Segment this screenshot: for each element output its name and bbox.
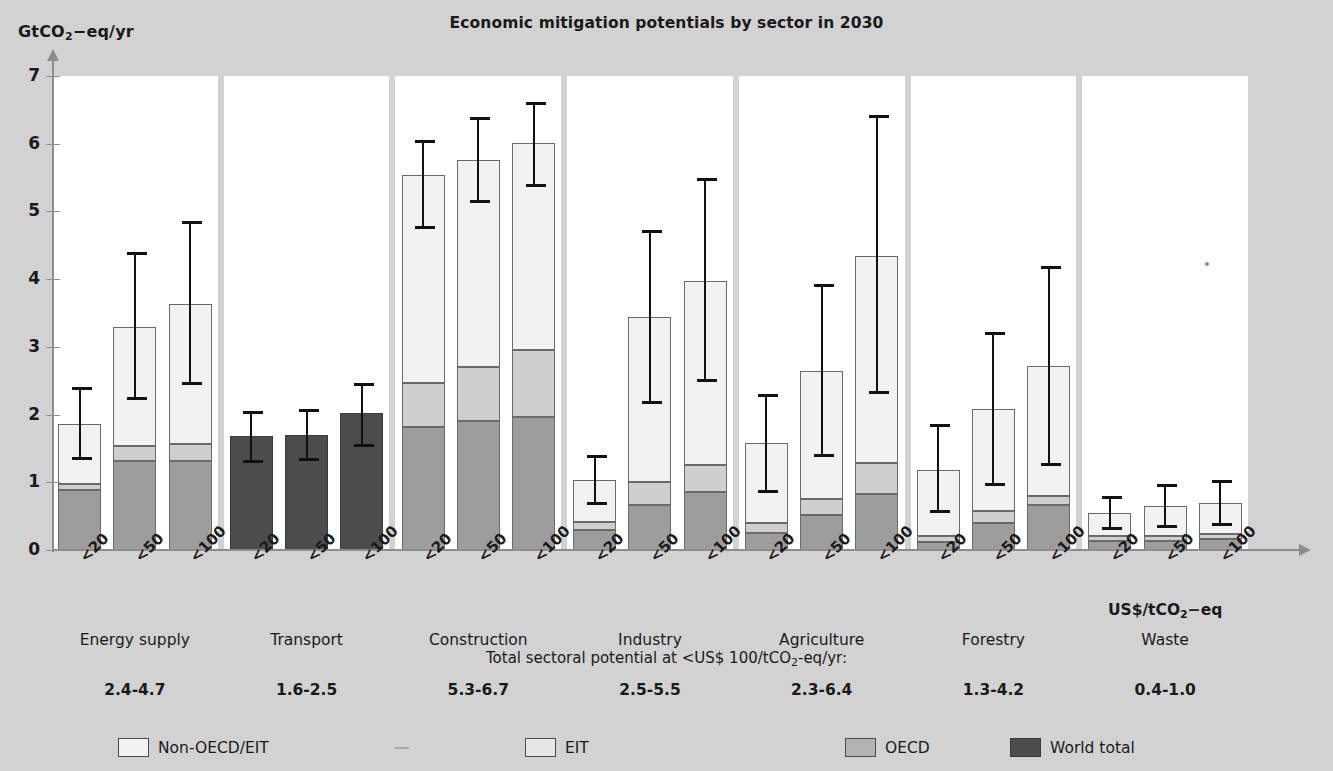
sector-total-value: 1.3-4.2 (911, 681, 1077, 699)
error-bar (533, 102, 535, 187)
bar-segment-eit (169, 444, 212, 460)
legend-item-oecd[interactable]: OECD (845, 738, 930, 757)
error-bar-cap-top (930, 424, 950, 427)
sector-total-value: 1.6-2.5 (224, 681, 390, 699)
bar-segment-eit (628, 482, 671, 505)
error-bar (477, 117, 479, 204)
sector-panel (395, 76, 561, 550)
y-axis-tick-label: 2 (0, 404, 40, 424)
error-bar-cap-bottom (587, 502, 607, 505)
sector-label: Industry (567, 631, 733, 649)
bar-segment-oecd (512, 417, 555, 550)
error-bar-cap-top (1102, 496, 1122, 499)
error-bar-cap-top (1041, 266, 1061, 269)
bar[interactable] (512, 143, 555, 550)
error-bar (1109, 496, 1111, 530)
error-bar-cap-top (72, 387, 92, 390)
sector-label: Agriculture (739, 631, 905, 649)
sector-label: Construction (395, 631, 561, 649)
y-axis-tick-label: 4 (0, 268, 40, 288)
error-bar-cap-bottom (415, 226, 435, 229)
x-axis-unit-label: US$/tCO2−eq (1082, 601, 1248, 621)
sector-panel (52, 76, 218, 550)
legend-item-nonoecd[interactable]: Non-OECD/EIT (118, 738, 269, 757)
error-bar-cap-top (1157, 484, 1177, 487)
error-bar-cap-bottom (243, 460, 263, 463)
error-bar (1048, 266, 1050, 466)
error-bar-cap-bottom (1102, 527, 1122, 530)
y-axis-tick-label: 7 (0, 65, 40, 85)
error-bar (79, 387, 81, 459)
legend-swatch-world (1010, 738, 1041, 757)
y-axis-tick (46, 279, 60, 280)
legend-label: World total (1050, 739, 1135, 757)
legend-item-world[interactable]: World total (1010, 738, 1135, 757)
error-bar-cap-bottom (299, 458, 319, 461)
stray-dot-artifact (1205, 262, 1209, 266)
error-bar-cap-bottom (182, 382, 202, 385)
sector-label: Waste (1082, 631, 1248, 649)
error-bar (1219, 480, 1221, 526)
bar-segment-eit (684, 465, 727, 492)
error-bar-cap-top (354, 383, 374, 386)
error-bar-cap-bottom (758, 490, 778, 493)
plot-area (52, 76, 1248, 550)
sector-panel (911, 76, 1077, 550)
bar-segment-eit (512, 350, 555, 417)
chart-legend: Non-OECD/EITEITOECDWorld total (0, 738, 1333, 771)
bar[interactable] (402, 175, 445, 550)
sector-label: Transport (224, 631, 390, 649)
sector-total-value: 0.4-1.0 (1082, 681, 1248, 699)
legend-item-eit[interactable]: EIT (525, 738, 589, 757)
y-axis-tick (46, 415, 60, 416)
bar-segment-eit (972, 511, 1015, 523)
y-axis-tick (46, 76, 60, 77)
y-axis-tick (46, 482, 60, 483)
error-bar-cap-bottom (869, 391, 889, 394)
error-bar-cap-top (587, 455, 607, 458)
legend-swatch-eit (525, 738, 556, 757)
y-axis-tick (46, 144, 60, 145)
legend-swatch-oecd (845, 738, 876, 757)
error-bar (876, 115, 878, 394)
error-bar-cap-bottom (642, 401, 662, 404)
bar-segment-eit (113, 446, 156, 461)
total-caption: Total sectoral potential at <US$ 100/tCO… (0, 649, 1333, 669)
error-bar-cap-top (814, 284, 834, 287)
error-bar-cap-top (299, 409, 319, 412)
bar-segment-eit (573, 522, 616, 530)
legend-divider-artifact (395, 747, 409, 749)
error-bar-cap-top (243, 411, 263, 414)
error-bar-cap-top (642, 230, 662, 233)
error-bar-cap-top (985, 332, 1005, 335)
sector-total-value: 2.4-4.7 (52, 681, 218, 699)
error-bar (992, 332, 994, 486)
error-bar-cap-bottom (930, 510, 950, 513)
bar[interactable] (457, 160, 500, 550)
error-bar-cap-top (869, 115, 889, 118)
bar-segment-oecd (457, 421, 500, 550)
sector-total-value: 2.3-6.4 (739, 681, 905, 699)
error-bar-cap-top (127, 252, 147, 255)
legend-label: OECD (885, 739, 930, 757)
bar-segment-eit (855, 463, 898, 494)
error-bar (765, 394, 767, 493)
error-bar (189, 221, 191, 385)
sector-panel (224, 76, 390, 550)
error-bar-cap-bottom (526, 184, 546, 187)
bar-segment-eit (800, 499, 843, 515)
sector-panel (739, 76, 905, 550)
error-bar-cap-bottom (985, 483, 1005, 486)
error-bar (594, 455, 596, 505)
error-bar-cap-bottom (127, 397, 147, 400)
sector-panel (567, 76, 733, 550)
y-axis-tick-label: 0 (0, 539, 40, 559)
error-bar (1164, 484, 1166, 527)
error-bar-cap-bottom (1157, 525, 1177, 528)
error-bar (361, 383, 363, 447)
error-bar-cap-bottom (470, 200, 490, 203)
error-bar-cap-bottom (1212, 523, 1232, 526)
error-bar-cap-bottom (1041, 463, 1061, 466)
error-bar-cap-bottom (72, 457, 92, 460)
y-axis-line (52, 60, 54, 552)
